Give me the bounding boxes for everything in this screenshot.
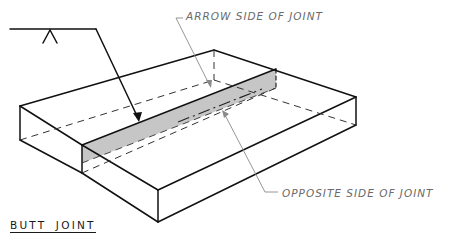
arrow-side-label: ARROW SIDE OF JOINT	[186, 10, 323, 22]
arrowhead-icon	[133, 112, 142, 122]
arrow-side-arrowhead-icon	[206, 80, 212, 88]
opposite-side-leader	[225, 115, 278, 192]
arrow-side-symbol-icon	[43, 30, 57, 43]
figure-title: BUTT JOINT	[10, 219, 96, 233]
weld-symbol	[10, 29, 138, 118]
opposite-side-label: OPPOSITE SIDE OF JOINT	[282, 187, 434, 199]
butt-joint-drawing	[0, 0, 460, 250]
